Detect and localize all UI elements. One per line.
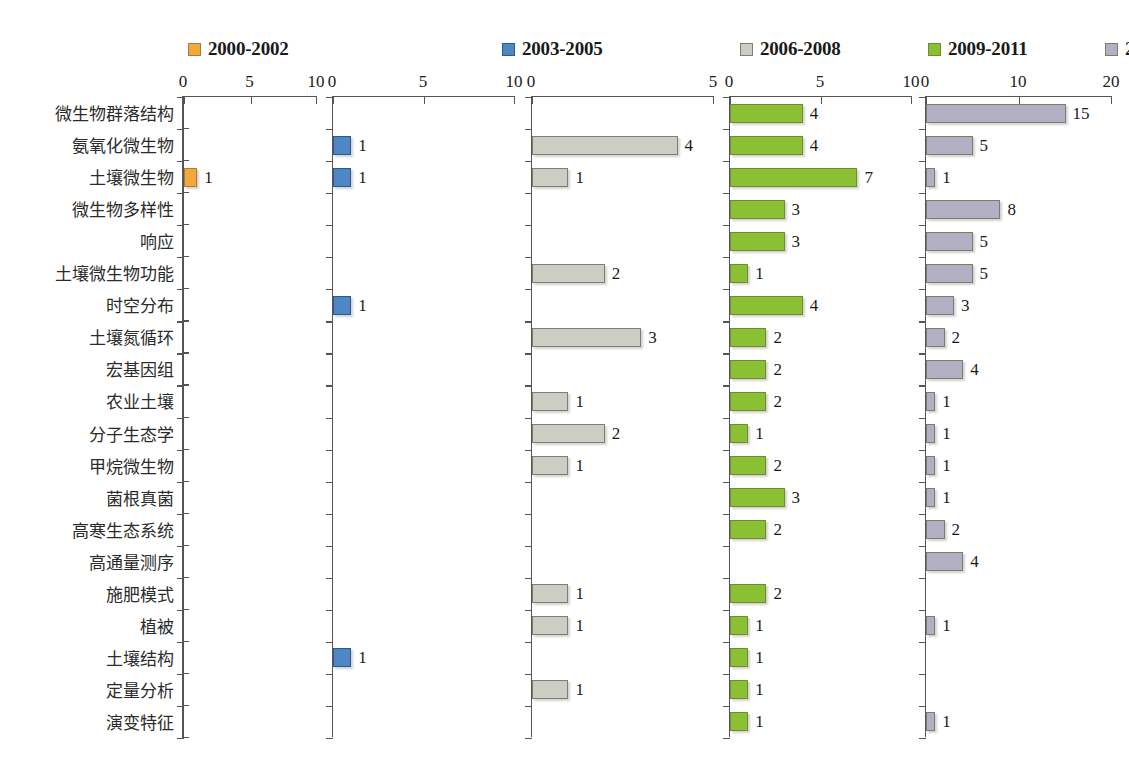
bar[interactable]	[184, 168, 197, 187]
row-tick	[723, 161, 730, 162]
bar[interactable]	[926, 712, 935, 731]
bar[interactable]	[730, 712, 748, 731]
bar[interactable]	[333, 168, 351, 187]
bar[interactable]	[926, 520, 945, 539]
bar-row: 5	[926, 232, 1111, 251]
panel-2012-2014: 01020155185532411112411	[925, 72, 1111, 737]
bar[interactable]	[730, 648, 748, 667]
bar-row: 2	[730, 360, 911, 379]
row-tick	[723, 321, 730, 322]
bar[interactable]	[532, 680, 568, 699]
bar[interactable]	[333, 296, 351, 315]
row-tick	[326, 225, 333, 226]
bar[interactable]	[926, 360, 963, 379]
bar[interactable]	[926, 200, 1000, 219]
row-tick	[525, 418, 532, 419]
bar[interactable]	[926, 104, 1066, 123]
row-tick	[919, 418, 926, 419]
row-tick	[919, 738, 926, 739]
bar[interactable]	[730, 264, 748, 283]
bar[interactable]	[532, 584, 568, 603]
bar[interactable]	[730, 584, 766, 603]
bar[interactable]	[730, 136, 803, 155]
category-label: 时空分布	[106, 292, 174, 317]
bar[interactable]	[926, 232, 973, 251]
legend-item-2009-2011[interactable]: 2009-2011	[928, 38, 1027, 60]
bar-row: 5	[926, 136, 1111, 155]
bar[interactable]	[532, 456, 568, 475]
bar[interactable]	[926, 296, 954, 315]
row-tick	[525, 482, 532, 483]
bar[interactable]	[532, 264, 605, 283]
bar-value-label: 1	[755, 712, 764, 731]
category-label: 农业土壤	[106, 388, 174, 413]
bar[interactable]	[730, 328, 766, 347]
bar[interactable]	[926, 456, 935, 475]
bar[interactable]	[926, 392, 935, 411]
bar-value-label: 3	[961, 296, 970, 315]
bar[interactable]	[730, 488, 785, 507]
bar[interactable]	[730, 360, 766, 379]
bar[interactable]	[926, 552, 963, 571]
chart-legend: 2000-20022003-20052006-20082009-20112012…	[0, 38, 1129, 64]
bar[interactable]	[926, 264, 973, 283]
bar[interactable]	[730, 520, 766, 539]
bar[interactable]	[333, 136, 351, 155]
legend-item-2000-2002[interactable]: 2000-2002	[188, 38, 289, 60]
bar[interactable]	[730, 392, 766, 411]
bar[interactable]	[730, 168, 857, 187]
bar[interactable]	[926, 488, 935, 507]
bar[interactable]	[532, 168, 568, 187]
bar[interactable]	[730, 296, 803, 315]
bar[interactable]	[730, 680, 748, 699]
bar[interactable]	[730, 456, 766, 475]
bar[interactable]	[532, 424, 605, 443]
bar[interactable]	[926, 328, 945, 347]
bar-value-label: 4	[810, 296, 819, 315]
value-axis-tick	[926, 96, 927, 104]
category-tick	[182, 609, 189, 610]
bar[interactable]	[730, 424, 748, 443]
bar[interactable]	[926, 136, 973, 155]
row-tick	[326, 578, 333, 579]
category-tick	[182, 352, 189, 353]
category-tick	[182, 513, 189, 514]
bar[interactable]	[532, 616, 568, 635]
bar-row: 2	[926, 520, 1111, 539]
category-label: 微生物多样性	[72, 196, 174, 221]
bar-row: 4	[926, 360, 1111, 379]
bar-value-label: 1	[575, 680, 584, 699]
bar[interactable]	[730, 616, 748, 635]
legend-item-2003-2005[interactable]: 2003-2005	[502, 38, 603, 60]
row-tick	[326, 674, 333, 675]
row-tick	[723, 674, 730, 675]
row-tick	[723, 450, 730, 451]
row-tick	[919, 385, 926, 386]
bar-row: 3	[730, 488, 911, 507]
row-tick	[525, 738, 532, 739]
category-tick	[182, 641, 189, 642]
legend-item-2012-2014[interactable]: 2012-2014	[1105, 38, 1129, 60]
row-tick	[723, 610, 730, 611]
bar-value-label: 1	[755, 424, 764, 443]
bar-row: 7	[730, 168, 911, 187]
category-tick	[182, 160, 189, 161]
bar-value-label: 4	[810, 104, 819, 123]
bar[interactable]	[730, 232, 785, 251]
bar[interactable]	[532, 392, 568, 411]
plot-area: 1	[183, 96, 316, 737]
bar-row: 1	[926, 712, 1111, 731]
bar[interactable]	[926, 616, 935, 635]
legend-item-2006-2008[interactable]: 2006-2008	[740, 38, 841, 60]
bar[interactable]	[926, 424, 935, 443]
plot-area: 4473314222123221111	[729, 96, 911, 737]
bar[interactable]	[532, 328, 641, 347]
legend-swatch-orange	[188, 43, 201, 56]
bar[interactable]	[730, 104, 803, 123]
bar[interactable]	[532, 136, 678, 155]
bar[interactable]	[730, 200, 785, 219]
row-tick	[919, 450, 926, 451]
bar[interactable]	[926, 168, 935, 187]
bar[interactable]	[333, 648, 351, 667]
bar-value-label: 1	[358, 136, 367, 155]
